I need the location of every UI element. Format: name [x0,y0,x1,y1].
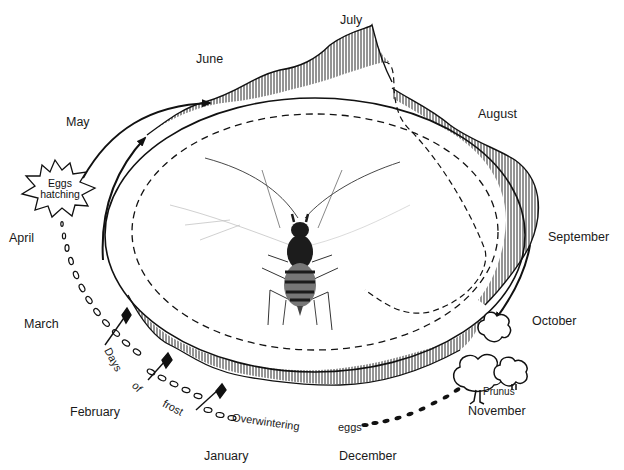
egg-chain-autumn [361,379,471,427]
aphid-illustration [170,158,410,330]
month-label-august: August [478,108,517,121]
month-label-september: September [548,231,609,244]
hatching-arrow-inner [103,138,145,260]
dashed-cycle-ellipse [132,114,498,350]
hatching-arrow-outer [83,103,210,178]
month-label-april: April [9,232,34,245]
month-label-july: July [340,14,362,27]
month-label-february: February [70,406,120,419]
month-label-may: May [66,116,90,129]
month-label-november: November [468,405,526,418]
month-label-march: March [24,318,59,331]
eggs-hatching-line2: hatching [38,189,82,200]
prunus-label: Prunus [483,387,515,397]
month-label-june: June [196,53,223,66]
eggs-label: eggs [338,422,362,433]
population-band-summer [147,25,392,135]
dashed-migration-path [365,62,486,313]
month-label-october: October [532,315,576,328]
eggs-hatching-label: Eggs hatching [38,178,82,200]
aphid-life-cycle-diagram: June July May August April September Mar… [0,0,624,470]
cycle-artwork [0,0,624,470]
month-label-january: January [204,450,248,463]
month-label-december: December [339,450,397,463]
